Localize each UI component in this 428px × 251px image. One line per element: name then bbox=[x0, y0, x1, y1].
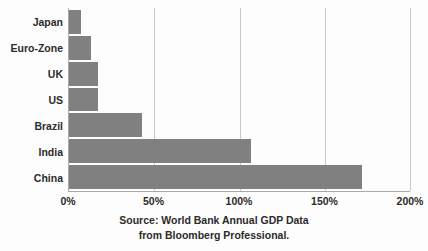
x-tick-label-0: 0% bbox=[60, 195, 75, 207]
bar-japan bbox=[69, 10, 81, 34]
category-label-euro-zone: Euro-Zone bbox=[0, 36, 63, 60]
bar-row bbox=[69, 139, 410, 163]
bar-row bbox=[69, 113, 410, 137]
x-axis-tick-labels: 0%50%100%150%200% bbox=[68, 195, 410, 211]
source-caption: Source: World Bank Annual GDP Data from … bbox=[0, 213, 428, 243]
x-tick-label-200: 200% bbox=[397, 195, 424, 207]
category-label-india: India bbox=[0, 140, 63, 164]
bar-row bbox=[69, 36, 410, 60]
source-caption-line-1: Source: World Bank Annual GDP Data bbox=[0, 213, 428, 228]
bar-uk bbox=[69, 62, 98, 86]
x-tick-label-150: 150% bbox=[311, 195, 338, 207]
bar-row bbox=[69, 165, 410, 189]
bar-row bbox=[69, 88, 410, 112]
gdp-bar-chart: JapanEuro-ZoneUKUSBrazilIndiaChina 0%50%… bbox=[0, 0, 428, 251]
category-label-brazil: Brazil bbox=[0, 114, 63, 138]
bar-brazil bbox=[69, 113, 142, 137]
source-caption-line-2: from Bloomberg Professional. bbox=[0, 228, 428, 243]
plot-area bbox=[68, 8, 410, 192]
category-label-china: China bbox=[0, 166, 63, 190]
x-tick-label-50: 50% bbox=[143, 195, 164, 207]
bar-china bbox=[69, 165, 362, 189]
gridline-200 bbox=[410, 8, 411, 191]
bar-rows bbox=[69, 8, 410, 191]
bar-euro-zone bbox=[69, 36, 91, 60]
bar-row bbox=[69, 10, 410, 34]
category-label-japan: Japan bbox=[0, 10, 63, 34]
category-label-us: US bbox=[0, 88, 63, 112]
bar-us bbox=[69, 88, 98, 112]
category-axis-labels: JapanEuro-ZoneUKUSBrazilIndiaChina bbox=[0, 8, 63, 192]
bar-india bbox=[69, 139, 251, 163]
x-tick-label-100: 100% bbox=[226, 195, 253, 207]
bar-row bbox=[69, 62, 410, 86]
category-label-uk: UK bbox=[0, 62, 63, 86]
